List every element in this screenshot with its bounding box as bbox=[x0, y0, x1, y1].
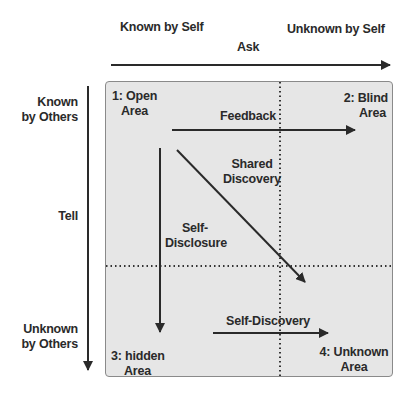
shared-discovery-line1: Shared bbox=[222, 157, 282, 172]
blind-area-label: 2: Blind Area bbox=[320, 91, 388, 121]
self-disclosure-line2: Disclosure bbox=[165, 236, 225, 251]
unknown-by-others-label: Unknown by Others bbox=[8, 322, 78, 352]
known-by-self-label: Known by Self bbox=[120, 20, 204, 35]
unknown-by-others-line1: Unknown bbox=[8, 322, 78, 337]
self-disclosure-line1: Self- bbox=[165, 221, 225, 236]
hidden-area-line2: Area bbox=[111, 364, 165, 379]
unknown-area-line1: 4: Unknown bbox=[318, 345, 390, 360]
unknown-by-others-line2: by Others bbox=[8, 337, 78, 352]
unknown-area-line2: Area bbox=[318, 360, 390, 375]
blind-area-line1: 2: Blind bbox=[320, 91, 388, 106]
blind-area-line2: Area bbox=[320, 106, 388, 121]
known-by-others-line1: Known bbox=[10, 95, 78, 110]
tell-label: Tell bbox=[10, 209, 78, 224]
open-area-line2: Area bbox=[112, 104, 157, 119]
shared-discovery-label: Shared Discovery bbox=[222, 157, 282, 187]
self-disclosure-label: Self- Disclosure bbox=[165, 221, 225, 251]
unknown-area-label: 4: Unknown Area bbox=[318, 345, 390, 375]
ask-label: Ask bbox=[237, 40, 259, 55]
known-by-others-line2: by Others bbox=[10, 110, 78, 125]
open-area-label: 1: Open Area bbox=[112, 89, 157, 119]
hidden-area-line1: 3: hidden bbox=[111, 349, 165, 364]
feedback-label: Feedback bbox=[220, 109, 276, 124]
open-area-line1: 1: Open bbox=[112, 89, 157, 104]
unknown-by-self-label: Unknown by Self bbox=[287, 22, 385, 37]
hidden-area-label: 3: hidden Area bbox=[111, 349, 165, 379]
shared-discovery-line2: Discovery bbox=[222, 172, 282, 187]
self-discovery-label: Self-Discovery bbox=[226, 314, 310, 329]
known-by-others-label: Known by Others bbox=[10, 95, 78, 125]
